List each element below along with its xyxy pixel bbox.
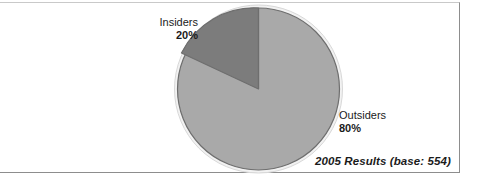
- pie-chart-figure: Insiders 20% Outsiders 80% 2005 Results …: [0, 0, 477, 179]
- pie-label-outsiders: Outsiders 80%: [339, 109, 386, 135]
- pie-label-outsiders-name: Outsiders: [339, 109, 386, 122]
- pie-label-insiders-name: Insiders: [100, 16, 198, 29]
- chart-footnote: 2005 Results (base: 554): [315, 155, 451, 167]
- pie-label-insiders-percent: 20%: [100, 29, 198, 42]
- pie-plot-area: Insiders 20% Outsiders 80%: [0, 0, 477, 179]
- pie-label-insiders: Insiders 20%: [100, 16, 198, 42]
- pie-chart-svg: [0, 0, 477, 179]
- pie-label-outsiders-percent: 80%: [339, 122, 386, 135]
